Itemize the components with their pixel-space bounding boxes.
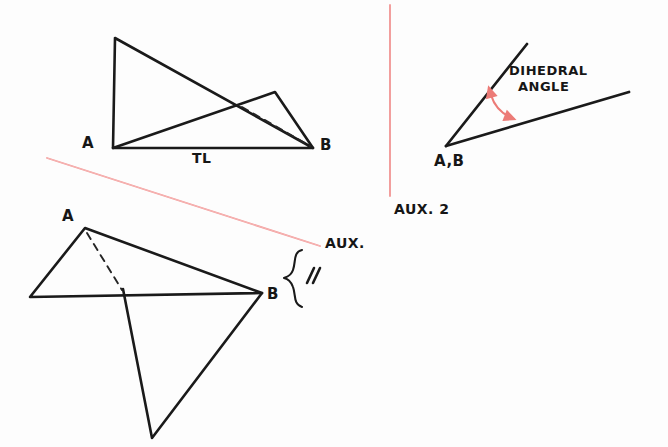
top-label-b: B <box>320 136 332 154</box>
transfer-distance-brace <box>284 250 302 307</box>
aux2-ray-upper <box>446 44 527 146</box>
top-label-tl: TL <box>192 150 211 166</box>
bottom-lower-triangle <box>123 289 262 438</box>
bottom-hidden-edge <box>87 233 122 290</box>
figure-bottom-left: A B AUX. <box>30 207 365 438</box>
bottom-label-b: B <box>267 285 279 303</box>
bottom-upper-triangle <box>30 228 262 297</box>
dihedral-angle-arc <box>491 95 514 119</box>
dihedral-angle-label-line1: DIHEDRAL <box>509 63 588 78</box>
top-secondary-plane <box>113 92 313 148</box>
dihedral-angle-label-line2: ANGLE <box>518 79 569 94</box>
geometry-drawing: A B TL A B AUX. <box>0 0 668 447</box>
aux2-ray-lower <box>446 92 629 146</box>
bottom-label-a: A <box>62 207 74 225</box>
top-label-a: A <box>82 134 94 152</box>
label-aux: AUX. <box>325 235 365 251</box>
drawing-sheet: A B TL A B AUX. <box>0 0 668 447</box>
aux2-label-vertex: A,B <box>434 152 465 170</box>
figure-right-aux2: A,B DIHEDRAL ANGLE AUX. 2 <box>394 44 629 217</box>
fold-lines-group <box>47 5 390 246</box>
label-aux2: AUX. 2 <box>394 201 450 217</box>
figure-top-left: A B TL <box>82 38 332 166</box>
top-triangle-outline <box>113 38 313 148</box>
